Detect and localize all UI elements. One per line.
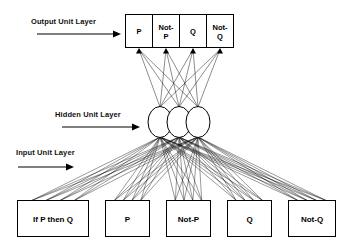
connection-line bbox=[60, 137, 179, 201]
connection-line bbox=[60, 137, 160, 201]
connection-line bbox=[46, 137, 179, 201]
hidden-unit-layer bbox=[148, 107, 210, 138]
output-unit-label-line2: P bbox=[163, 32, 168, 41]
connection-line bbox=[184, 137, 198, 201]
connection-line bbox=[160, 137, 245, 201]
input-unit-label: Not-P bbox=[178, 215, 200, 224]
input-unit-label: Not-Q bbox=[301, 215, 323, 224]
connection-line bbox=[198, 137, 317, 201]
input-unit-label: Q bbox=[246, 215, 252, 224]
output-unit-label-line1: Not- bbox=[159, 23, 174, 32]
connection-line bbox=[160, 137, 307, 201]
connection-line bbox=[179, 137, 245, 201]
connection-line bbox=[32, 137, 160, 201]
output-unit-layer: P Not- P Q Not- Q bbox=[126, 15, 234, 48]
connection-line bbox=[74, 137, 160, 201]
output-layer-arrow-head bbox=[113, 31, 121, 38]
output-layer-annotation: Output Unit Layer bbox=[31, 17, 121, 37]
output-unit-label: P bbox=[136, 27, 141, 36]
input-layer-arrow-head bbox=[66, 164, 74, 171]
hidden-layer-arrow-head bbox=[132, 124, 140, 131]
connection-line bbox=[46, 137, 160, 201]
connection-arrow-head bbox=[217, 48, 223, 54]
connection-arrow-head bbox=[136, 48, 142, 54]
hidden-to-output-connections bbox=[136, 48, 223, 107]
connection-line bbox=[160, 137, 254, 201]
connection-line bbox=[179, 137, 263, 201]
connection-line bbox=[139, 50, 160, 108]
connection-line bbox=[198, 137, 254, 201]
input-layer-annotation: Input Unit Layer bbox=[16, 148, 75, 170]
connection-line bbox=[160, 137, 326, 201]
connection-line bbox=[179, 50, 220, 108]
input-to-hidden-connections bbox=[32, 137, 326, 201]
connection-arrow-head bbox=[190, 48, 196, 54]
hidden-layer-annotation: Hidden Unit Layer bbox=[55, 110, 140, 130]
hidden-layer-label: Hidden Unit Layer bbox=[55, 110, 121, 119]
connection-line bbox=[179, 50, 193, 108]
hidden-unit-node[interactable] bbox=[186, 107, 210, 138]
connection-line bbox=[160, 50, 220, 108]
input-unit-label: P bbox=[125, 215, 131, 224]
output-layer-label: Output Unit Layer bbox=[31, 17, 96, 26]
connection-arrow-head bbox=[163, 48, 169, 54]
connection-line bbox=[141, 137, 160, 201]
connection-line bbox=[139, 50, 198, 108]
connection-line bbox=[198, 50, 220, 108]
input-unit-label: If P then Q bbox=[33, 215, 73, 224]
connection-line bbox=[166, 50, 198, 108]
input-layer-label: Input Unit Layer bbox=[16, 148, 75, 157]
input-unit-layer: If P then Q P Not-P Q Not-Q bbox=[18, 201, 336, 237]
connection-line bbox=[123, 137, 179, 201]
neural-network-diagram: P Not- P Q Not- Q If P then Q P Not-P Q … bbox=[0, 0, 350, 245]
connection-line bbox=[166, 50, 179, 108]
output-unit-label-line1: Not- bbox=[213, 23, 228, 32]
output-unit-label-line2: Q bbox=[217, 32, 223, 41]
connection-line bbox=[114, 137, 160, 201]
output-unit-label: Q bbox=[190, 27, 196, 36]
connection-line bbox=[193, 50, 198, 108]
connection-line bbox=[139, 50, 179, 108]
connection-line bbox=[160, 137, 263, 201]
